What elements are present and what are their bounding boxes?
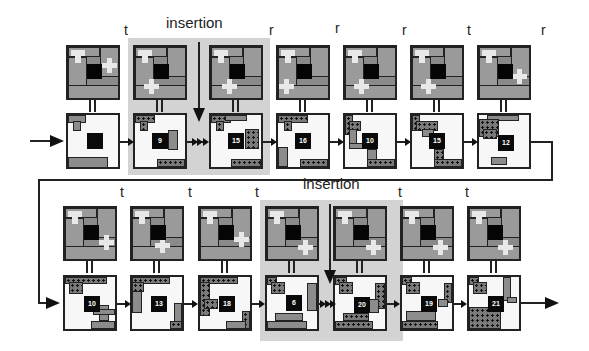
stage-board: 15 <box>209 113 263 169</box>
light-tee-piece <box>139 216 145 224</box>
puzzle-piece <box>444 47 464 77</box>
puzzle-piece <box>65 246 117 261</box>
puzzle-piece <box>243 47 263 77</box>
light-tee-piece <box>75 55 81 63</box>
flow-arrow-head <box>394 300 400 308</box>
connector <box>500 100 502 112</box>
piece <box>168 130 178 150</box>
wrap-line <box>38 179 40 303</box>
stage-number: 16 <box>295 133 311 149</box>
dotted-piece <box>284 121 292 131</box>
puzzle-board <box>66 45 120 100</box>
puzzle-piece <box>367 208 387 238</box>
stage-number: 15 <box>429 133 445 149</box>
puzzle-piece <box>469 246 521 261</box>
piece <box>267 321 307 329</box>
connector <box>153 261 155 273</box>
dotted-piece <box>170 321 182 329</box>
stage-number: 12 <box>498 135 514 151</box>
op-label: r <box>335 20 340 36</box>
connector <box>304 100 306 112</box>
piece <box>132 291 142 313</box>
op-label: r <box>541 22 546 38</box>
light-plus-piece <box>279 84 294 89</box>
light-tee-piece <box>274 216 280 224</box>
light-tee-piece <box>207 216 213 224</box>
light-tee-piece <box>218 55 224 63</box>
puzzle-piece <box>200 246 252 261</box>
op-label: t <box>465 184 469 200</box>
light-plus-piece <box>234 237 249 242</box>
light-tee-piece <box>419 55 425 63</box>
stage-board: 12 <box>477 113 531 169</box>
stage-board: 10 <box>63 275 117 331</box>
center-square <box>498 64 513 79</box>
stage-number: 20 <box>354 297 370 313</box>
center-square <box>151 225 166 240</box>
connector <box>232 100 234 112</box>
insertion-label-row1: insertion <box>166 14 223 31</box>
connector <box>158 261 160 273</box>
center-square <box>219 225 234 240</box>
stage-number: 21 <box>488 296 504 312</box>
dotted-piece <box>402 321 438 329</box>
connector <box>366 100 368 112</box>
piece <box>278 147 288 167</box>
op-label: t <box>124 22 128 38</box>
light-plus-piece <box>354 84 369 89</box>
insertion-label-row2: insertion <box>303 175 360 192</box>
dotted-piece <box>406 282 420 294</box>
piece <box>174 303 182 323</box>
puzzle-piece <box>97 208 117 238</box>
piece <box>369 299 379 313</box>
connector <box>490 261 492 273</box>
stage-board: 18 <box>198 275 252 331</box>
stage-board: 19 <box>400 275 454 331</box>
center-square <box>84 225 99 240</box>
connector <box>94 100 96 112</box>
connector <box>428 261 430 273</box>
stage-board <box>66 113 120 169</box>
puzzle-piece <box>132 246 184 261</box>
piece <box>307 283 317 311</box>
light-tee-piece <box>476 216 482 224</box>
puzzle-board <box>400 206 454 261</box>
dotted-piece <box>245 129 259 149</box>
puzzle-piece <box>299 208 319 238</box>
light-tee-piece <box>142 55 148 63</box>
puzzle-piece <box>434 208 454 238</box>
dotted-piece <box>300 159 328 167</box>
insertion-arrow-shaft-row1 <box>198 42 200 110</box>
op-label: t <box>398 184 402 200</box>
connector <box>423 261 425 273</box>
wrap-line <box>38 179 553 181</box>
stage-board: 21 <box>467 275 521 331</box>
dotted-piece <box>231 159 261 167</box>
connector <box>221 261 223 273</box>
dotted-piece <box>339 282 353 294</box>
center-square <box>286 225 301 240</box>
stage-board: 9 <box>133 113 187 169</box>
flow-arrow-head <box>125 300 131 308</box>
center-square <box>421 225 436 240</box>
light-plus-piece <box>222 84 237 89</box>
connector <box>438 100 440 112</box>
piece <box>73 121 81 131</box>
stage-board: 20 <box>333 275 387 331</box>
puzzle-board <box>333 206 387 261</box>
dotted-piece <box>343 313 369 321</box>
stage-number: 15 <box>228 133 244 149</box>
puzzle-board <box>410 45 464 100</box>
dotted-piece <box>335 321 373 329</box>
center-square <box>230 64 245 79</box>
puzzle-board <box>198 206 252 261</box>
puzzle-board <box>130 206 184 261</box>
piece <box>226 321 246 329</box>
connector <box>293 261 295 273</box>
puzzle-board <box>63 206 117 261</box>
light-plus-piece <box>102 63 117 68</box>
flow-arrow-head <box>203 138 209 146</box>
center-square <box>488 225 503 240</box>
puzzle-piece <box>164 208 184 238</box>
flow-arrow-head <box>259 300 265 308</box>
